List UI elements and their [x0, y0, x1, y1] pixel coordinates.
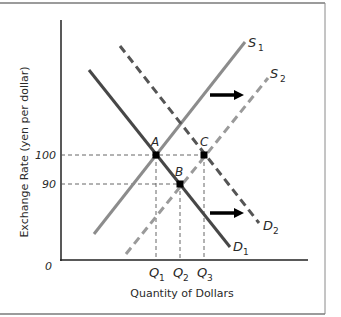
svg-text:Q: Q — [197, 265, 207, 280]
curve-label-d1: D 1 — [233, 239, 249, 257]
curve-label-s1: S 1 — [248, 35, 264, 53]
supply-curve-s1 — [94, 42, 245, 234]
exchange-rate-chart: A B C S 1 S 2 D 1 D 2 100 90 0 Q 1 Q 2 Q… — [0, 0, 341, 317]
point-b-label: B — [175, 165, 183, 179]
point-b-marker — [177, 181, 184, 188]
point-a-marker — [153, 152, 160, 159]
y-tick-90: 90 — [42, 178, 56, 191]
demand-shift-arrow — [210, 208, 244, 218]
point-c-label: C — [200, 135, 209, 149]
svg-text:D: D — [263, 218, 273, 233]
svg-text:S: S — [248, 35, 256, 50]
x-tick-q3: Q 3 — [197, 265, 213, 283]
svg-text:2: 2 — [183, 273, 189, 283]
y-axis-title: Exchange Rate (yen per dollar) — [18, 66, 31, 237]
svg-text:2: 2 — [273, 226, 279, 236]
origin-label: 0 — [45, 260, 52, 273]
curve-label-s2: S 2 — [270, 66, 286, 84]
x-axis-title: Quantity of Dollars — [130, 287, 234, 300]
svg-text:3: 3 — [207, 273, 213, 283]
supply-shift-arrow — [210, 90, 244, 100]
point-c-marker — [201, 152, 208, 159]
x-tick-q2: Q 2 — [173, 265, 189, 283]
x-tick-q1: Q 1 — [149, 265, 165, 283]
svg-text:Q: Q — [173, 265, 183, 280]
svg-text:1: 1 — [243, 247, 249, 257]
svg-text:1: 1 — [258, 43, 264, 53]
svg-text:D: D — [233, 239, 243, 254]
svg-text:1: 1 — [159, 273, 165, 283]
y-tick-100: 100 — [35, 149, 56, 162]
curve-label-d2: D 2 — [263, 218, 279, 236]
point-a-label: A — [150, 135, 159, 149]
svg-text:S: S — [270, 66, 278, 81]
svg-text:Q: Q — [149, 265, 159, 280]
svg-text:2: 2 — [280, 74, 286, 84]
